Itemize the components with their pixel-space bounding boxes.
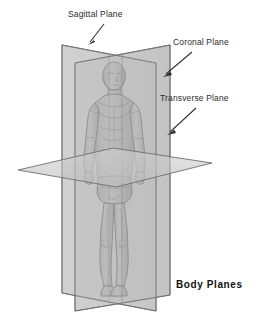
diagram-canvas: Sagittal Plane Coronal Plane Transverse … [0,0,267,324]
sagittal-leader-line [90,24,104,42]
diagram-title: Body Planes [176,279,243,290]
label-coronal-plane: Coronal Plane [163,37,229,77]
sagittal-arrowhead [88,37,95,45]
body-planes-diagram: Sagittal Plane Coronal Plane Transverse … [0,0,267,324]
sagittal-plane-label: Sagittal Plane [68,9,123,19]
transverse-leader-line [170,108,196,132]
transverse-plane-label: Transverse Plane [160,93,229,103]
coronal-plane-label: Coronal Plane [173,37,229,47]
label-sagittal-plane: Sagittal Plane [68,9,123,45]
transverse-plane [18,148,212,187]
